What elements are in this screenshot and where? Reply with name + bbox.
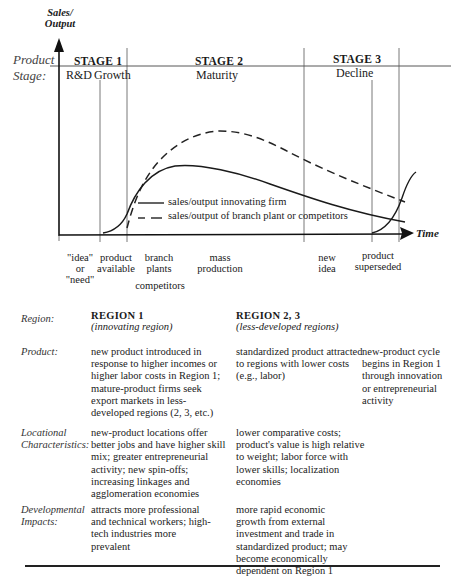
phase-growth: Growth	[94, 68, 131, 83]
annotation-new-idea: new idea	[312, 252, 342, 274]
product-stage-label: Product Stage:	[13, 52, 54, 84]
region23-header: REGION 2, 3 (less-developed regions)	[236, 310, 376, 332]
product-label: Product	[13, 52, 54, 68]
phase-maturity: Maturity	[196, 68, 238, 83]
bottom-rule	[25, 565, 440, 567]
y-axis-arrow-icon	[54, 38, 64, 52]
phase-decline: Decline	[336, 66, 373, 81]
annotation-competitors: competitors	[134, 280, 186, 291]
annotation-product-superseded: product superseded	[352, 250, 404, 272]
annotation-mass-production: mass production	[192, 252, 248, 274]
stage3-header: STAGE 3	[333, 53, 381, 65]
annotation-product-available: product available	[96, 252, 136, 274]
developmental-region1-cell: attracts more professional and technical…	[91, 504, 211, 553]
annotation-branch-plants: branch plants	[139, 252, 179, 274]
row-label-locational-line1: Locational	[21, 427, 89, 439]
annotation-idea: "idea" or "need"	[60, 252, 100, 285]
stage-label: Stage:	[13, 68, 54, 84]
region1-title: REGION 1	[91, 310, 226, 321]
x-axis-arrow-icon	[400, 227, 414, 240]
annotation-idea-line2: or	[60, 263, 100, 274]
annotation-new-line2: idea	[312, 263, 342, 274]
y-axis-label: Sales/ Output	[40, 7, 80, 29]
row-label-product: Product:	[21, 346, 58, 358]
x-axis	[59, 234, 402, 235]
row-label-developmental-line2: Impacts:	[21, 516, 85, 528]
annotation-new-line1: new	[312, 252, 342, 263]
annotation-mass-line2: production	[192, 263, 248, 274]
annotation-available-line1: product	[96, 252, 136, 263]
locational-region1-cell: new-product locations offer better jobs …	[91, 427, 231, 500]
legend-dashed-label: sales/output of branch plant or competit…	[168, 210, 348, 221]
stage2-header: STAGE 2	[195, 55, 243, 67]
region23-subtitle: (less-developed regions)	[236, 321, 376, 332]
legend-solid-label: sales/output innovating firm	[168, 196, 286, 207]
product-region23-cell: standardized product attracted to region…	[236, 346, 366, 383]
row-label-region: Region:	[21, 313, 54, 325]
row-label-locational: Locational Characteristics:	[21, 427, 89, 451]
product-extra-cell: new-product cycle begins in Region 1 thr…	[362, 346, 444, 407]
region1-subtitle: (innovating region)	[91, 321, 226, 332]
annotation-superseded-line1: product	[352, 250, 404, 261]
annotation-branch-line1: branch	[139, 252, 179, 263]
annotation-superseded-line2: superseded	[352, 261, 404, 272]
annotation-idea-line3: "need"	[60, 274, 100, 285]
row-label-developmental: Developmental Impacts:	[21, 504, 85, 528]
y-axis-label-line1: Sales/	[40, 7, 80, 18]
phase-rd: R&D	[66, 68, 92, 83]
stage1-header: STAGE 1	[74, 55, 122, 67]
annotation-idea-line1: "idea"	[60, 252, 100, 263]
region1-header: REGION 1 (innovating region)	[91, 310, 226, 332]
region23-title: REGION 2, 3	[236, 310, 376, 321]
annotation-mass-line1: mass	[192, 252, 248, 263]
row-label-developmental-line1: Developmental	[21, 504, 85, 516]
row-label-product-text: Product:	[21, 346, 58, 358]
product-region1-cell: new product introduced in response to hi…	[91, 346, 229, 419]
y-axis-label-line2: Output	[40, 18, 80, 29]
new-product-curve	[372, 172, 416, 233]
annotation-available-line2: available	[96, 263, 136, 274]
row-label-locational-line2: Characteristics:	[21, 439, 89, 451]
annotation-branch-line2: plants	[139, 263, 179, 274]
locational-region23-cell: lower comparative costs; product's value…	[236, 427, 368, 488]
x-axis-label: Time	[416, 227, 439, 239]
